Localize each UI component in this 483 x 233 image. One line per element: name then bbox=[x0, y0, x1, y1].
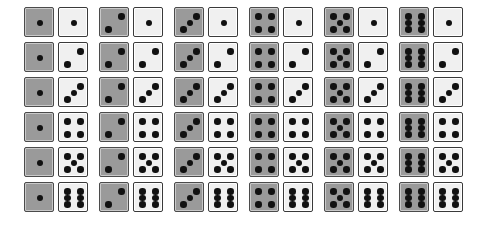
pip-center bbox=[337, 125, 343, 131]
pip-bottom-left bbox=[405, 96, 411, 102]
gray-die-5 bbox=[324, 77, 354, 107]
pip-bottom-right bbox=[343, 26, 349, 32]
pip-top-right bbox=[193, 83, 199, 89]
pip-top-right bbox=[152, 188, 158, 194]
gray-die-3 bbox=[174, 42, 204, 72]
pip-bottom-right bbox=[418, 61, 424, 67]
pip-top-right bbox=[152, 83, 158, 89]
white-die-4 bbox=[58, 112, 88, 142]
pip-top-right bbox=[418, 83, 424, 89]
pip-bottom-left bbox=[180, 61, 186, 67]
pip-top-left bbox=[139, 118, 145, 124]
pip-bottom-left bbox=[180, 131, 186, 137]
pip-bottom-right bbox=[418, 166, 424, 172]
pip-bottom-right bbox=[343, 96, 349, 102]
gray-die-1 bbox=[24, 42, 54, 72]
pip-bottom-left bbox=[105, 96, 111, 102]
white-die-3 bbox=[283, 77, 313, 107]
pip-top-right bbox=[152, 48, 158, 54]
pip-top-right bbox=[343, 13, 349, 19]
gray-die-3 bbox=[174, 77, 204, 107]
pip-bottom-left bbox=[439, 201, 445, 207]
white-die-5 bbox=[358, 147, 388, 177]
pip-bottom-right bbox=[377, 166, 383, 172]
pip-top-left bbox=[405, 188, 411, 194]
gray-die-6 bbox=[399, 77, 429, 107]
pip-top-right bbox=[302, 83, 308, 89]
pip-center bbox=[37, 160, 43, 166]
pip-top-left bbox=[439, 118, 445, 124]
pip-bottom-right bbox=[452, 166, 458, 172]
pip-bottom-left bbox=[364, 96, 370, 102]
pip-center bbox=[337, 195, 343, 201]
gray-die-5 bbox=[324, 7, 354, 37]
pip-top-right bbox=[302, 118, 308, 124]
pip-center bbox=[71, 160, 77, 166]
gray-die-2 bbox=[99, 147, 129, 177]
pip-top-left bbox=[255, 118, 261, 124]
pip-top-right bbox=[268, 188, 274, 194]
gray-die-4 bbox=[249, 112, 279, 142]
pip-bottom-left bbox=[405, 61, 411, 67]
dice-pair-5-3 bbox=[324, 77, 388, 107]
dice-pair-6-6 bbox=[399, 182, 463, 212]
pip-center bbox=[371, 160, 377, 166]
pip-bottom-right bbox=[227, 201, 233, 207]
pip-bottom-left bbox=[180, 201, 186, 207]
pip-center bbox=[296, 20, 302, 26]
dice-pair-5-6 bbox=[324, 182, 388, 212]
pip-top-left bbox=[330, 118, 336, 124]
pip-top-right bbox=[418, 153, 424, 159]
pip-top-right bbox=[302, 48, 308, 54]
pip-bottom-right bbox=[227, 166, 233, 172]
pip-bottom-right bbox=[452, 131, 458, 137]
pip-bottom-right bbox=[343, 61, 349, 67]
pip-top-right bbox=[377, 188, 383, 194]
pip-top-left bbox=[439, 188, 445, 194]
pip-top-right bbox=[343, 118, 349, 124]
gray-die-2 bbox=[99, 112, 129, 142]
pip-bottom-left bbox=[405, 166, 411, 172]
pip-center bbox=[146, 160, 152, 166]
pip-center bbox=[221, 160, 227, 166]
white-die-6 bbox=[283, 182, 313, 212]
pip-bottom-left bbox=[405, 131, 411, 137]
dice-pair-1-2 bbox=[24, 42, 88, 72]
pip-bottom-right bbox=[268, 26, 274, 32]
pip-top-right bbox=[193, 118, 199, 124]
pip-top-right bbox=[452, 188, 458, 194]
pip-bottom-right bbox=[302, 131, 308, 137]
pip-center bbox=[187, 125, 193, 131]
pip-center bbox=[221, 20, 227, 26]
pip-center bbox=[71, 20, 77, 26]
pip-top-left bbox=[405, 118, 411, 124]
pip-bottom-right bbox=[268, 96, 274, 102]
pip-top-right bbox=[118, 13, 124, 19]
pip-bottom-left bbox=[214, 96, 220, 102]
pip-bottom-left bbox=[289, 166, 295, 172]
pip-center bbox=[146, 20, 152, 26]
pip-top-left bbox=[405, 13, 411, 19]
pip-top-right bbox=[193, 153, 199, 159]
pip-top-left bbox=[255, 48, 261, 54]
dice-pair-3-1 bbox=[174, 7, 238, 37]
dice-pair-6-4 bbox=[399, 112, 463, 142]
pip-top-right bbox=[302, 153, 308, 159]
pip-top-left bbox=[330, 188, 336, 194]
pip-top-right bbox=[452, 48, 458, 54]
pip-bottom-left bbox=[255, 26, 261, 32]
pip-top-left bbox=[289, 118, 295, 124]
white-die-3 bbox=[433, 77, 463, 107]
pip-top-left bbox=[405, 153, 411, 159]
white-die-4 bbox=[283, 112, 313, 142]
pip-center bbox=[37, 125, 43, 131]
pip-bottom-left bbox=[105, 131, 111, 137]
pip-bottom-left bbox=[105, 26, 111, 32]
pip-top-right bbox=[418, 118, 424, 124]
pip-top-left bbox=[330, 153, 336, 159]
pip-top-left bbox=[255, 153, 261, 159]
white-die-6 bbox=[133, 182, 163, 212]
dice-pair-5-1 bbox=[324, 7, 388, 37]
dice-pair-2-5 bbox=[99, 147, 163, 177]
pip-top-right bbox=[268, 83, 274, 89]
